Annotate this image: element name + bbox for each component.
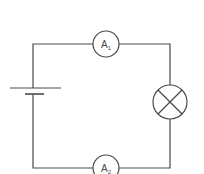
cell-symbol: [10, 88, 61, 94]
circuit-diagram: A1 A2: [0, 0, 204, 174]
wire-right-bottom: [119, 119, 170, 168]
wire-top-right: [119, 44, 170, 85]
ammeter-a2: A2: [93, 155, 119, 174]
wire-top-left: [33, 44, 93, 88]
wire-bottom-left: [33, 94, 93, 168]
lamp-symbol: [153, 85, 187, 119]
ammeter-a1: A1: [93, 31, 119, 57]
